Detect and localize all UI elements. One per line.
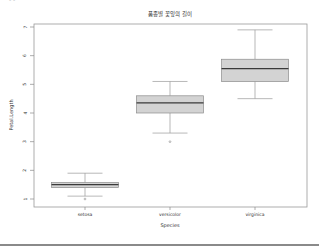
iqr-box: [222, 59, 289, 81]
x-axis-title: Species: [160, 222, 180, 229]
box-versicolor: [137, 81, 204, 142]
y-axis-title: Petal.Length: [8, 99, 15, 130]
iqr-box: [137, 96, 204, 113]
x-tick-label: setosa: [78, 212, 93, 217]
plot-frame: [34, 24, 307, 207]
y-tick-label: 3: [23, 140, 28, 143]
y-axis: 1234567: [23, 25, 35, 200]
y-tick-label: 7: [23, 25, 28, 28]
outlier-point: [169, 141, 171, 143]
x-tick-label: versicolor: [159, 212, 181, 217]
box-setosa: [52, 173, 119, 200]
y-tick-label: 2: [23, 169, 28, 172]
box-virginica: [222, 30, 289, 99]
chart-title: 품종별 꽃잎의 길이: [148, 10, 192, 18]
y-tick-label: 1: [23, 197, 28, 200]
x-axis: setosaversicolorvirginica: [78, 207, 265, 217]
y-tick-label: 5: [23, 83, 28, 86]
bottom-divider: [0, 244, 319, 246]
y-tick-label: 6: [23, 54, 28, 57]
boxplot-chart: 품종별 꽃잎의 길이 1234567 setosaversicolorvirgi…: [0, 0, 319, 247]
x-tick-label: virginica: [245, 212, 264, 217]
boxes-group: [52, 30, 289, 200]
y-tick-label: 4: [23, 111, 28, 114]
outlier-point: [84, 198, 86, 200]
